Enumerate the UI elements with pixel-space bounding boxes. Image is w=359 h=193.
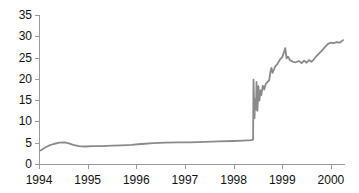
y-tick-label: 20 bbox=[19, 72, 33, 86]
y-tick-label: 35 bbox=[19, 8, 33, 22]
y-tick-label: 10 bbox=[19, 114, 33, 128]
x-tick-label: 1996 bbox=[123, 173, 150, 187]
x-tick-label: 1997 bbox=[172, 173, 199, 187]
x-tick-label: 1994 bbox=[26, 173, 53, 187]
chart-canvas: 0510152025303519941995199619971998199920… bbox=[0, 0, 359, 193]
line-chart-figure: 0510152025303519941995199619971998199920… bbox=[0, 0, 359, 193]
y-tick-label: 0 bbox=[25, 157, 32, 171]
y-tick-label: 30 bbox=[19, 29, 33, 43]
data-line-value bbox=[41, 40, 344, 150]
x-tick-label: 1995 bbox=[74, 173, 101, 187]
x-tick-label: 1999 bbox=[269, 173, 296, 187]
y-tick-label: 5 bbox=[25, 136, 32, 150]
y-tick-label: 15 bbox=[19, 93, 33, 107]
x-tick-label: 2000 bbox=[318, 173, 345, 187]
x-tick-label: 1998 bbox=[220, 173, 247, 187]
y-tick-label: 25 bbox=[19, 51, 33, 65]
